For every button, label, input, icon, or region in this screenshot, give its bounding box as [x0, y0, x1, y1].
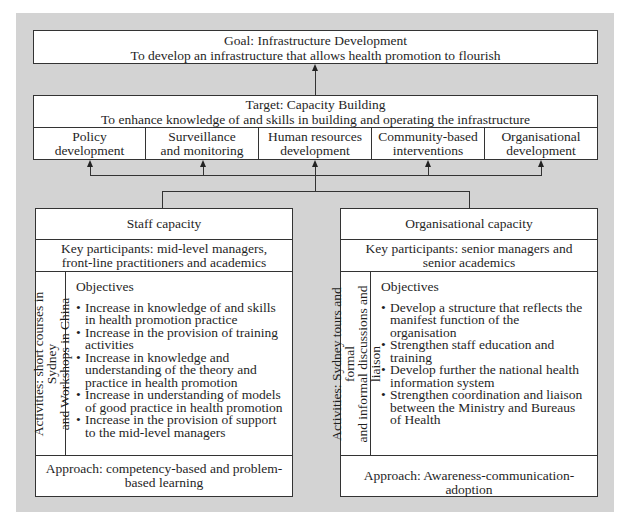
org-activities: Activities: Sydney tours and formal and …: [341, 272, 371, 455]
target-subtitle: To enhance knowledge of and skills in bu…: [34, 112, 597, 127]
kp-line: front-line practitioners and academics: [36, 256, 292, 270]
activities-line: Activities: short courses in Sydney: [31, 273, 57, 455]
objective-item: Increase in knowledge and understanding …: [76, 352, 284, 390]
kp-line: Key participants: senior managers and: [341, 242, 597, 256]
staff-activities: Activities: short courses in Sydney and …: [36, 272, 66, 455]
area-label: development: [34, 144, 145, 158]
staff-capacity-title: Staff capacity: [36, 209, 292, 240]
arrowhead-area-4: [425, 160, 431, 167]
org-activities-objectives: Activities: Sydney tours and formal and …: [341, 272, 597, 456]
area-label: and monitoring: [146, 144, 258, 158]
area-label: Organisational: [485, 130, 597, 144]
arrowhead-area-3: [312, 160, 318, 167]
connector-target-to-goal: [315, 70, 316, 95]
area-label: development: [485, 144, 597, 158]
objective-item: Increase in understanding of models of g…: [76, 389, 284, 414]
arrowhead-goal: [312, 64, 318, 71]
area-label: interventions: [372, 144, 484, 158]
objective-item: Develop further the national health info…: [381, 364, 589, 389]
objectives-heading: Objectives: [76, 281, 284, 294]
staff-activities-objectives: Activities: short courses in Sydney and …: [36, 272, 292, 456]
arrowhead-area-5: [538, 160, 544, 167]
objective-item: Increase in knowledge of and skills in h…: [76, 302, 284, 327]
activities-line: and informal discussions and liaison: [356, 273, 382, 455]
area-label: Policy: [34, 130, 145, 144]
area-organisational-development: Organisational development: [485, 128, 597, 160]
staff-key-participants: Key participants: mid-level managers, fr…: [36, 240, 292, 272]
objective-item: Increase in the provision of training ac…: [76, 327, 284, 352]
staff-objectives: Objectives Increase in knowledge of and …: [66, 272, 292, 455]
activities-line: Activities: Sydney tours and formal: [330, 273, 356, 455]
goal-title: Goal: Infrastructure Development: [34, 33, 597, 48]
connector-areas-bus: [90, 175, 542, 176]
target-header: Target: Capacity Building To enhance kno…: [34, 96, 597, 128]
target-box: Target: Capacity Building To enhance kno…: [33, 95, 598, 160]
connector-org: [469, 191, 470, 208]
area-policy-development: Policy development: [34, 128, 146, 160]
capacity-areas: Policy development Surveillance and moni…: [34, 128, 597, 160]
area-human-resources-development: Human resources development: [259, 128, 372, 160]
staff-capacity-box: Staff capacity Key participants: mid-lev…: [35, 208, 293, 497]
connector-area-3: [315, 165, 316, 192]
area-surveillance-monitoring: Surveillance and monitoring: [146, 128, 259, 160]
org-approach: Approach: Awareness-communication-adopti…: [341, 456, 597, 497]
area-label: Human resources: [259, 130, 371, 144]
objective-item: Strengthen staff education and training: [381, 339, 589, 364]
goal-subtitle: To develop an infrastructure that allows…: [34, 48, 597, 63]
org-objectives: Objectives Develop a structure that refl…: [371, 272, 597, 455]
connector-capacity-bus: [162, 191, 470, 192]
org-key-participants: Key participants: senior managers and se…: [341, 240, 597, 272]
kp-line: senior academics: [341, 256, 597, 270]
connector-staff: [162, 191, 163, 208]
objective-item: Strengthen coordination and liaison betw…: [381, 389, 589, 427]
goal-box: Goal: Infrastructure Development To deve…: [33, 30, 598, 64]
organisational-capacity-box: Organisational capacity Key participants…: [340, 208, 598, 497]
arrowhead-area-1: [87, 160, 93, 167]
objectives-heading: Objectives: [381, 281, 589, 294]
kp-line: Key participants: mid-level managers,: [36, 242, 292, 256]
staff-approach: Approach: competency-based and problem-b…: [36, 456, 292, 490]
area-community-based-interventions: Community-based interventions: [372, 128, 485, 160]
area-label: Community-based: [372, 130, 484, 144]
target-title: Target: Capacity Building: [34, 97, 597, 112]
arrowhead-area-2: [200, 160, 206, 167]
objective-item: Increase in the provision of support to …: [76, 414, 284, 439]
objective-item: Develop a structure that reflects the ma…: [381, 302, 589, 340]
activities-line: and Workshops in China: [57, 273, 70, 455]
area-label: development: [259, 144, 371, 158]
area-label: Surveillance: [146, 130, 258, 144]
org-capacity-title: Organisational capacity: [341, 209, 597, 240]
